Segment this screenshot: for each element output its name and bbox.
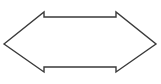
double-arrow-outline[interactable] xyxy=(4,12,156,72)
drawing-canvas xyxy=(0,0,161,84)
double-arrow-shape[interactable] xyxy=(0,0,161,84)
